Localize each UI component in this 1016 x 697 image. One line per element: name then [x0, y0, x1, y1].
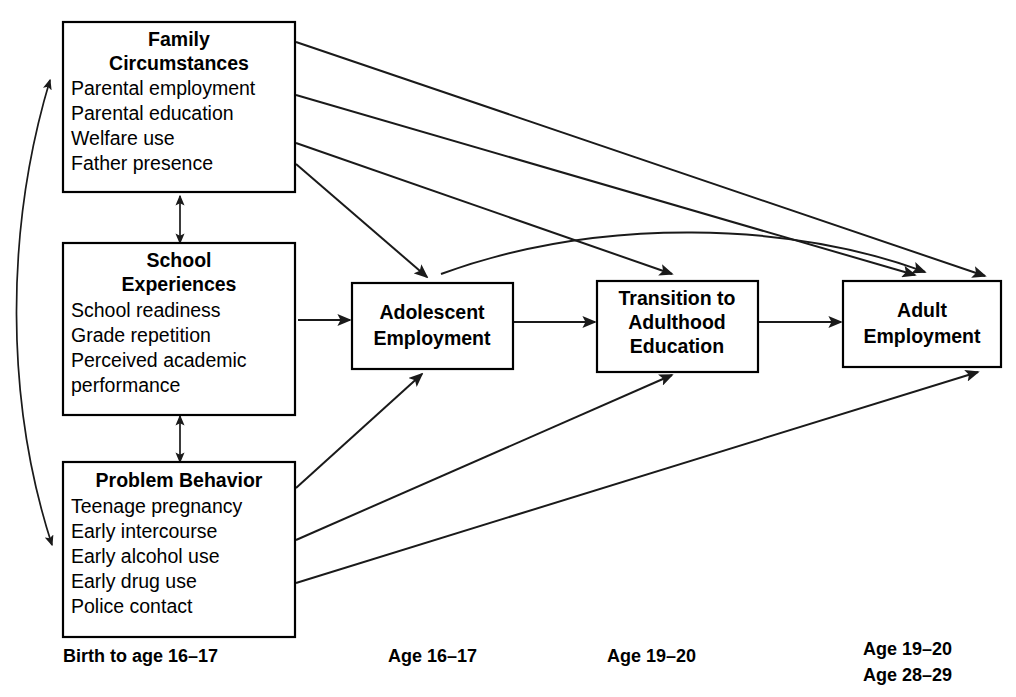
adult-employment-line-1: Employment	[863, 325, 981, 347]
family-circumstances-item-2: Welfare use	[71, 127, 175, 149]
family-circumstances-item-1: Parental education	[71, 102, 234, 124]
timeline-label-birth-to-16-17: Birth to age 16–17	[63, 646, 218, 666]
edge-family-to-adult-secondary	[296, 95, 915, 275]
transition-line-1: Adulthood	[628, 311, 725, 333]
node-transition-to-adulthood-education[interactable]: Transition to Adulthood Education	[597, 281, 758, 372]
diagram-canvas: Family Circumstances Parental employment…	[0, 0, 1016, 697]
family-circumstances-item-3: Father presence	[71, 152, 213, 174]
problem-behavior-item-1: Early intercourse	[71, 520, 217, 542]
edge-family-to-transition	[296, 143, 672, 274]
node-problem-behavior[interactable]: Problem Behavior Teenage pregnancy Early…	[63, 462, 295, 637]
adolescent-employment-line-1: Employment	[373, 327, 491, 349]
edge-problem-to-adult	[296, 372, 978, 583]
edge-problem-to-adolescent	[296, 374, 422, 488]
family-circumstances-title-line2: Circumstances	[109, 52, 249, 74]
node-family-circumstances[interactable]: Family Circumstances Parental employment…	[63, 22, 295, 192]
node-adolescent-employment[interactable]: Adolescent Employment	[352, 283, 513, 369]
transition-line-0: Transition to	[619, 287, 736, 309]
adolescent-employment-line-0: Adolescent	[379, 301, 485, 323]
adult-employment-line-0: Adult	[897, 299, 947, 321]
edge-problem-to-transition	[296, 375, 672, 540]
timeline-label-age-16-17: Age 16–17	[388, 646, 477, 666]
adolescent-employment-box[interactable]	[352, 283, 513, 369]
timeline-label-age-19-20: Age 19–20	[607, 646, 696, 666]
problem-behavior-item-0: Teenage pregnancy	[71, 495, 243, 517]
school-experiences-title-line2: Experiences	[122, 273, 237, 295]
family-circumstances-title-line1: Family	[148, 28, 210, 50]
node-adult-employment[interactable]: Adult Employment	[843, 281, 1001, 367]
edge-adolescent-to-adult-curved	[441, 232, 925, 274]
problem-behavior-item-2: Early alcohol use	[71, 545, 220, 567]
family-circumstances-item-0: Parental employment	[71, 77, 256, 99]
adult-employment-box[interactable]	[843, 281, 1001, 367]
school-experiences-item-0: School readiness	[71, 299, 221, 321]
problem-behavior-item-3: Early drug use	[71, 570, 197, 592]
problem-behavior-title-line1: Problem Behavior	[96, 469, 263, 491]
timeline-label-age-28-29-adult: Age 28–29	[863, 665, 952, 685]
school-experiences-item-3: performance	[71, 374, 180, 396]
edge-family-to-adult	[296, 42, 985, 276]
node-school-experiences[interactable]: School Experiences School readiness Grad…	[63, 243, 295, 415]
edge-family-problem-curved-bidirectional	[16, 80, 52, 545]
pathways-diagram: Family Circumstances Parental employment…	[0, 0, 1016, 697]
school-experiences-title-line1: School	[146, 249, 211, 271]
school-experiences-item-2: Perceived academic	[71, 349, 247, 371]
timeline-label-age-19-20-adult: Age 19–20	[863, 639, 952, 659]
problem-behavior-item-4: Police contact	[71, 595, 193, 617]
school-experiences-item-1: Grade repetition	[71, 324, 211, 346]
transition-line-2: Education	[630, 335, 724, 357]
